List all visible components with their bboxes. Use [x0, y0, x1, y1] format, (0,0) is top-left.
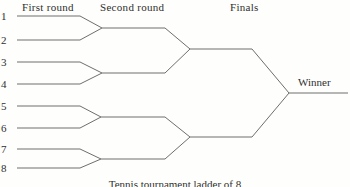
- line-player3: [17, 62, 102, 73]
- line-player2: [17, 28, 102, 40]
- line-player4: [17, 73, 102, 84]
- winner-label: Winner: [298, 76, 331, 89]
- bracket-line-group: [17, 16, 348, 168]
- line-player1: [17, 16, 102, 28]
- line-final-top: [190, 49, 289, 93]
- line-semifinal-2: [102, 49, 190, 73]
- line-final-bottom: [190, 93, 289, 137]
- bracket-lines: [0, 0, 350, 187]
- line-player8: [17, 159, 101, 168]
- tournament-ladder-diagram: First round Second round Finals 1 2 3 4 …: [0, 0, 350, 187]
- line-semifinal-1: [102, 28, 190, 49]
- line-semifinal-3: [101, 117, 190, 137]
- line-player6: [17, 117, 101, 128]
- line-player7: [17, 149, 101, 159]
- line-semifinal-4: [101, 137, 190, 159]
- line-player5: [17, 106, 101, 117]
- diagram-caption: Tennis tournament ladder of 8: [109, 178, 241, 187]
